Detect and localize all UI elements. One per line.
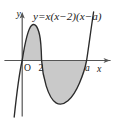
x-tick-label-2: 2 — [39, 62, 44, 73]
cubic-curve-plot: y=x(x−2)(x−a) y x O 2 a — [0, 0, 125, 119]
y-axis-label: y — [16, 8, 22, 19]
x-tick-label-a: a — [85, 62, 90, 73]
math-figure: y=x(x−2)(x−a) y x O 2 a — [0, 0, 125, 119]
origin-label: O — [24, 62, 31, 73]
equation-label: y=x(x−2)(x−a) — [32, 10, 102, 23]
x-axis-label: x — [96, 63, 102, 74]
